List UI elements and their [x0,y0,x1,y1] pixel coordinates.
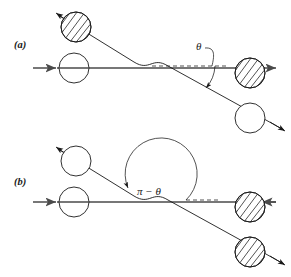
figure-background [0,0,291,277]
panel-a-angle-label: θ [196,40,202,52]
panel-a-left-target-particle [59,53,89,83]
panel-b-upper-left-particle [61,146,91,176]
panel-b-left-target-particle [59,187,89,217]
diagram-canvas: (a) θ [0,0,291,277]
panel-b-label: (b) [14,176,26,188]
panel-a-lower-right-particle [235,103,265,133]
panel-a-label: (a) [14,39,26,51]
panel-b-angle-label: π − θ [137,185,161,197]
scattering-figure: (a) θ [0,0,291,277]
